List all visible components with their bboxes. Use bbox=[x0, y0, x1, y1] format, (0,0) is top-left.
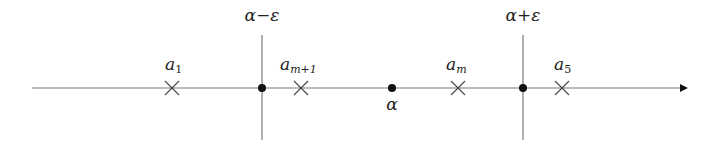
label-alpha-plus-epsilon: α+ε bbox=[506, 5, 541, 25]
label-am1: am+1 bbox=[280, 54, 317, 76]
label-a1: a1 bbox=[165, 54, 182, 76]
number-line-diagram: α−ε α+ε α a1 am+1 am a5 bbox=[0, 0, 710, 141]
label-a5: a5 bbox=[554, 54, 571, 76]
point-alpha bbox=[388, 84, 396, 92]
label-alpha: α bbox=[386, 94, 398, 114]
label-am: am bbox=[446, 54, 467, 76]
point-alpha-plus-epsilon bbox=[519, 84, 527, 92]
point-alpha-minus-epsilon bbox=[258, 84, 266, 92]
axis-arrow-icon bbox=[680, 84, 688, 92]
label-alpha-minus-epsilon: α−ε bbox=[245, 5, 280, 25]
